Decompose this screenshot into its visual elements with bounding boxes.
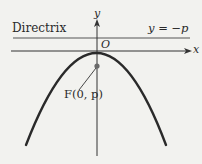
y-axis-label: y [94,8,100,19]
parabola-diagram: Directrix y = −p O x y F(0, p) [0,0,202,164]
directrix-label: Directrix [12,22,66,34]
x-axis-label: x [193,44,199,55]
origin-label: O [101,39,110,50]
focus-label: F(0, p) [64,89,103,101]
focus-point [94,63,99,68]
directrix-equation: y = −p [148,23,188,35]
